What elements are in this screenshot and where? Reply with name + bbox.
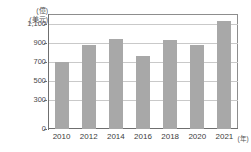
y-axis-tick-mark <box>44 62 47 63</box>
y-axis: 03005007009001,100 <box>0 14 46 129</box>
x-axis-tick-label: 2010 <box>48 132 76 142</box>
x-axis: 2010201220142016201820202021(年) <box>48 130 238 150</box>
y-axis-tick-mark <box>44 81 47 82</box>
y-axis-tick-label: 500 <box>2 77 46 85</box>
y-axis-tick-mark <box>44 24 47 25</box>
y-axis-tick-label: 1,100 <box>2 20 46 28</box>
bar <box>109 39 123 129</box>
bar <box>190 45 204 129</box>
x-axis-unit-label: (年) <box>237 134 248 144</box>
bar <box>55 62 69 129</box>
plot-area <box>48 14 238 129</box>
y-axis-tick-label: 0 <box>2 125 46 133</box>
y-axis-tick-mark <box>44 100 47 101</box>
y-axis-tick-label: 900 <box>2 39 46 47</box>
y-axis-line <box>48 14 49 130</box>
y-axis-tick-label: 700 <box>2 58 46 66</box>
gridline <box>48 43 238 44</box>
x-axis-tick-label: 2012 <box>75 132 103 142</box>
bar-chart: (億) (美元) 03005007009001,100 201020122014… <box>0 0 251 152</box>
x-axis-tick-label: 2021 <box>210 132 238 142</box>
bar <box>163 40 177 129</box>
x-axis-tick-label: 2020 <box>183 132 211 142</box>
y-axis-tick-mark <box>44 43 47 44</box>
bar <box>217 21 231 129</box>
bar <box>136 56 150 129</box>
x-axis-tick-label: 2018 <box>156 132 184 142</box>
y-axis-tick-label: 300 <box>2 96 46 104</box>
bar <box>82 45 96 129</box>
x-axis-tick-label: 2016 <box>129 132 157 142</box>
y-axis-tick-mark <box>44 129 47 130</box>
gridline <box>48 24 238 25</box>
x-axis-tick-label: 2014 <box>102 132 130 142</box>
